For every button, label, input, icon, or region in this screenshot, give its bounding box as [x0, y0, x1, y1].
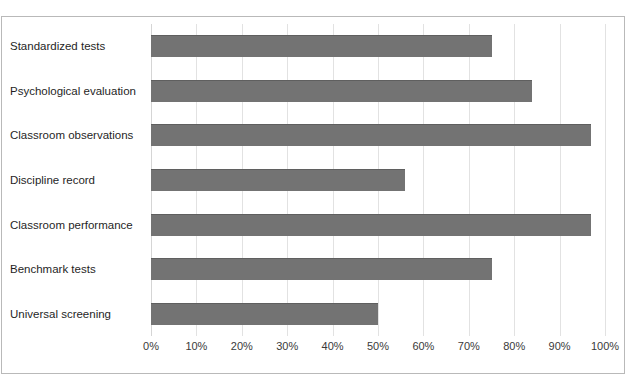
chart-title-fragment — [0, 0, 627, 7]
category-axis: Standardized testsPsychological evaluati… — [0, 24, 140, 336]
x-tick-label: 30% — [276, 340, 298, 352]
gridline-100 — [605, 24, 606, 336]
bar — [151, 35, 492, 57]
x-tick-label: 80% — [503, 340, 525, 352]
category-label: Universal screening — [10, 291, 111, 336]
x-tick-label: 40% — [322, 340, 344, 352]
x-tick-label: 100% — [591, 340, 619, 352]
bar — [151, 124, 591, 146]
bar-row — [151, 158, 605, 203]
bar — [151, 80, 532, 102]
bars-container — [151, 24, 605, 336]
bar — [151, 214, 591, 236]
bar-row — [151, 69, 605, 114]
category-label: Classroom performance — [10, 202, 133, 247]
category-label: Standardized tests — [10, 24, 105, 69]
x-tick-label: 50% — [367, 340, 389, 352]
bar-row — [151, 202, 605, 247]
bar-row — [151, 24, 605, 69]
x-tick-label: 20% — [231, 340, 253, 352]
x-tick-label: 70% — [458, 340, 480, 352]
category-label: Discipline record — [10, 158, 95, 203]
category-label: Psychological evaluation — [10, 69, 136, 114]
x-axis-tick-labels: 0%10%20%30%40%50%60%70%80%90%100% — [151, 340, 605, 360]
x-tick-label: 0% — [143, 340, 159, 352]
x-tick-label: 90% — [549, 340, 571, 352]
bar — [151, 303, 378, 325]
category-label: Classroom observations — [10, 113, 133, 158]
bar — [151, 169, 405, 191]
bar-row — [151, 291, 605, 336]
bar-row — [151, 247, 605, 292]
x-tick-label: 60% — [412, 340, 434, 352]
bar — [151, 258, 492, 280]
x-tick-label: 10% — [185, 340, 207, 352]
category-label: Benchmark tests — [10, 247, 96, 292]
bar-chart-figure: Standardized testsPsychological evaluati… — [0, 0, 627, 390]
bar-row — [151, 113, 605, 158]
